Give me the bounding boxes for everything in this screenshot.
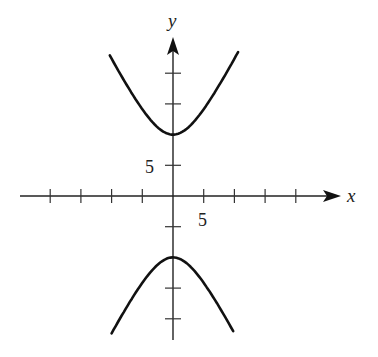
- y-axis: [167, 37, 179, 340]
- x-axis-label: x: [346, 185, 356, 206]
- y-tick-label-5: 5: [145, 157, 154, 177]
- hyperbola-plot: x y 5 5: [0, 0, 378, 357]
- upper-branch-curve: [110, 52, 238, 135]
- x-axis: [20, 190, 341, 202]
- y-axis-label: y: [166, 10, 177, 31]
- x-tick-label-5: 5: [198, 210, 207, 230]
